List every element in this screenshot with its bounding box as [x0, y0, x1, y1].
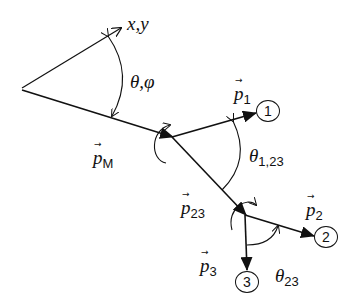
- theta-phi-label: θ,φ: [130, 72, 155, 91]
- p-m-label: →pM: [93, 148, 113, 170]
- axis-label: x,y: [127, 14, 149, 33]
- decay-diagram: x,y θ,φ →pM →p1 θ1,23 →p23 →p2 →p3 θ23 1…: [0, 0, 360, 306]
- theta-1-23-label: θ1,23: [249, 146, 284, 168]
- p3-label: →p3: [200, 256, 217, 278]
- p2-line: [245, 215, 314, 236]
- p-m-line: [22, 90, 173, 137]
- axis-line: [22, 28, 121, 88]
- theta-23-label: θ23: [275, 266, 299, 288]
- rotation-arrow-1: [154, 125, 170, 163]
- node-2: 2: [314, 226, 338, 248]
- rotation-arrow-2: [231, 202, 256, 230]
- p1-line: [172, 113, 256, 137]
- p3-line: [245, 215, 247, 270]
- node-1: 1: [256, 100, 280, 122]
- diagram-lines: [0, 0, 360, 306]
- p23-label: →p23: [181, 198, 205, 220]
- p2-label: →p2: [306, 200, 323, 222]
- theta-1-23-arc: [222, 121, 240, 190]
- p1-label: →p1: [234, 84, 251, 106]
- node-3: 3: [235, 271, 259, 293]
- theta-23-arc: [247, 226, 278, 245]
- theta-phi-arc: [108, 36, 123, 116]
